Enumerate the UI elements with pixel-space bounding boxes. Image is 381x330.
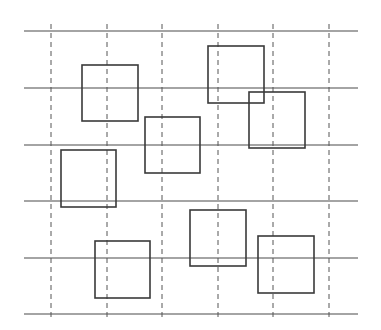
grid-diagram: [0, 0, 381, 330]
background: [0, 0, 381, 330]
